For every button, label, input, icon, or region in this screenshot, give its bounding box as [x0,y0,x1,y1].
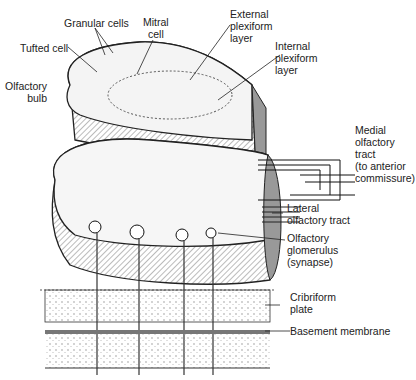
label-mitral-cell: Mitral cell [143,16,169,40]
label-medial-tract: Medial olfactory tract (to anterior comm… [355,124,415,184]
label-lateral-tract: Lateral olfactory tract [287,202,350,226]
label-tufted-cell: Tufted cell [20,42,68,54]
cribriform-plate [40,290,275,322]
lower-bulb [52,139,281,284]
olfactory-bulb-diagram [0,0,416,380]
label-cribriform: Cribriform plate [290,291,336,315]
label-basement: Basement membrane [290,325,390,337]
label-olfactory-bulb: Olfactory bulb [5,80,47,104]
label-glomerulus: Olfactory glomerulus (synapse) [287,232,338,268]
label-granular-cells: Granular cells [64,17,129,29]
label-external-plexiform: External plexiform layer [230,8,273,44]
basement-membrane [45,330,270,368]
label-internal-plexiform: Internal plexiform layer [275,40,318,76]
